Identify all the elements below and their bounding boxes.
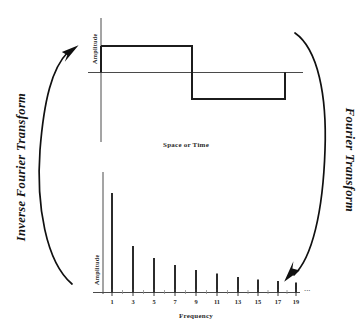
inverse-fourier-transform-arrow [39,42,78,284]
spectrum-tick-label-9: 9 [194,298,197,305]
inverse-transform-arc [39,52,72,284]
frequency-domain-chart: 1 3 5 7 9 11 13 15 17 19 ··· Amplitude F… [93,172,311,320]
spectrum-tick-label-11: 11 [214,298,220,305]
forward-transform-arc [294,33,325,275]
spectrum-spikes [112,193,296,293]
fourier-transform-label: Fourier Transform [343,107,357,212]
spectrum-tick-label-7: 7 [173,298,177,305]
diagram-canvas: Amplitude Space or Time [0,0,361,334]
spectrum-tick-label-17: 17 [275,298,282,305]
frequency-domain-x-axis-label: Frequency [179,312,213,320]
time-domain-chart: Amplitude Space or Time [88,18,303,149]
fourier-transform-diagram: Amplitude Space or Time [0,0,361,334]
spectrum-tick-label-1: 1 [110,298,113,305]
spectrum-ellipsis-label: ··· [304,287,311,294]
forward-transform-arrowhead [282,261,301,282]
frequency-domain-y-axis-label: Amplitude [93,255,100,286]
spectrum-tick-label-15: 15 [255,298,261,305]
spectrum-tick-label-5: 5 [152,298,155,305]
spectrum-tick-label-13: 13 [235,298,241,305]
time-domain-x-axis-label: Space or Time [163,141,209,149]
spectrum-tick-label-3: 3 [131,298,134,305]
inverse-fourier-transform-label: Inverse Fourier Transform [14,93,28,242]
fourier-transform-arrow [282,33,326,282]
inverse-transform-arrowhead [60,42,79,64]
spectrum-tick-label-19: 19 [293,298,299,305]
spectrum-tick-labels: 1 3 5 7 9 11 13 15 17 19 [110,298,299,305]
time-domain-y-axis-label: Amplitude [91,34,98,65]
